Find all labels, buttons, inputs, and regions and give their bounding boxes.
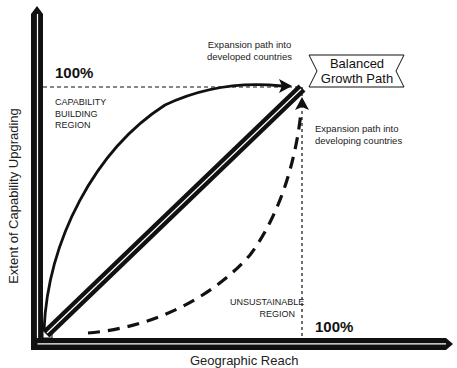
capability-building-region-label: CAPABILITY BUILDING REGION xyxy=(55,97,106,132)
x-axis xyxy=(31,338,453,350)
x-max-label: 100% xyxy=(315,318,353,335)
developing-annotation: Expansion path into developing countries xyxy=(315,123,402,147)
y-axis-label: Extent of Capability Upgrading xyxy=(6,108,21,284)
y-max-label: 100% xyxy=(55,64,93,81)
y-axis xyxy=(31,6,43,350)
balanced-growth-path-label: Balanced Growth Path xyxy=(318,56,396,86)
developed-annotation: Expansion path into developed countries xyxy=(181,39,318,63)
unsustainable-region-label: UNSUSTAINABLE REGION xyxy=(230,297,295,320)
x-axis-label: Geographic Reach xyxy=(190,353,298,368)
